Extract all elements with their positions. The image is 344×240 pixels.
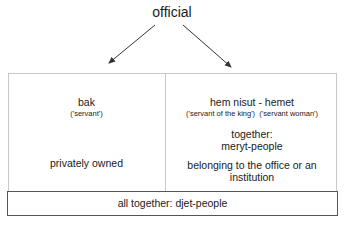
left-gloss: ('servant') xyxy=(8,109,165,118)
right-term: hem nisut - hemet xyxy=(166,96,338,108)
right-description-2: institution xyxy=(166,171,338,183)
right-gloss-king: ('servant of the king') xyxy=(186,109,255,118)
left-term: bak xyxy=(8,96,165,108)
arrow-right xyxy=(183,25,231,67)
right-glosses: ('servant of the king') ('servant woman'… xyxy=(166,109,338,118)
footer-box: all together: djet-people xyxy=(7,191,338,216)
arrow-left xyxy=(109,25,155,63)
together-label: together: xyxy=(166,128,338,140)
right-description-1: belonging to the office or an xyxy=(166,159,338,171)
left-description: privately owned xyxy=(8,157,165,169)
right-gloss-woman: ('servant woman') xyxy=(259,109,318,118)
together-value: meryt-people xyxy=(166,140,338,152)
